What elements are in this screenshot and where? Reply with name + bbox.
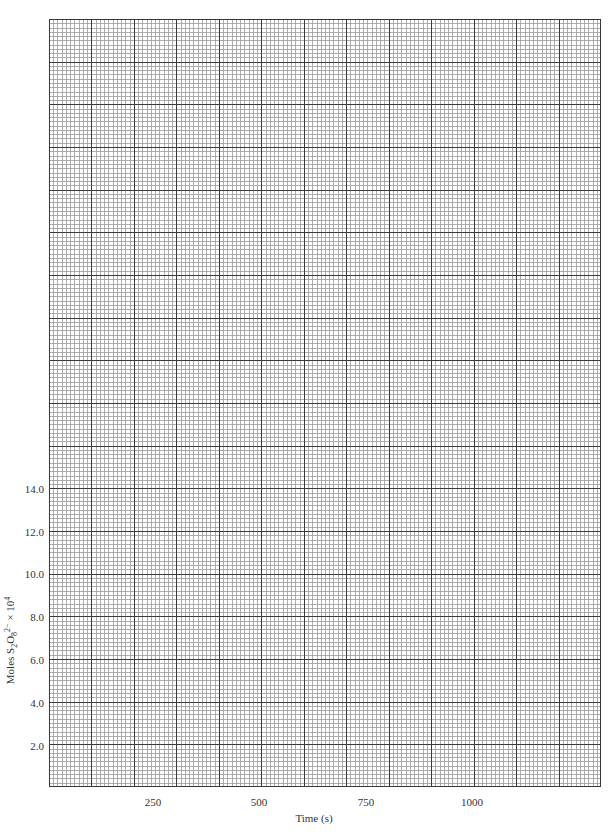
graph-paper-plot-area: [49, 19, 601, 787]
x-tick-label: 500: [229, 796, 289, 808]
y-axis-title: Moles S2O82− × 104: [3, 565, 20, 715]
y-tick-label: 12.0: [0, 526, 44, 538]
x-tick-label: 750: [336, 796, 396, 808]
grid-lines: [49, 19, 601, 787]
y-tick-label: 2.0: [0, 740, 44, 752]
x-tick-label: 250: [123, 796, 183, 808]
x-tick-label: 1000: [442, 796, 502, 808]
x-axis-title: Time (s): [254, 812, 374, 824]
y-tick-label: 14.0: [0, 483, 44, 495]
